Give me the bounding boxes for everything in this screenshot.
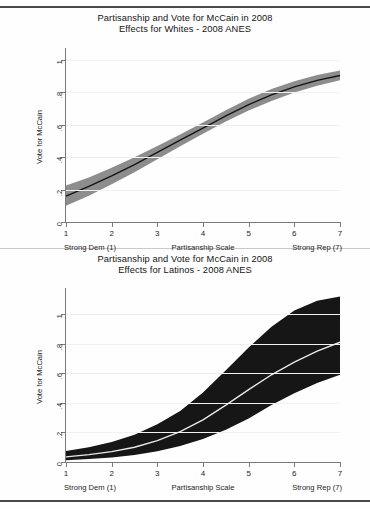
x-tick-label: 7 xyxy=(338,229,342,238)
y-tick-label: .4 xyxy=(55,403,64,409)
figure-whites: Partisanship and Vote for McCain in 2008… xyxy=(0,8,370,248)
plot-area-whites: Vote for McCain Strong Dem (1) Partisans… xyxy=(66,52,340,222)
gridline-y xyxy=(66,432,340,433)
y-tick-label: 1 xyxy=(55,60,64,64)
x-tick-label: 5 xyxy=(246,469,250,478)
figure-latinos-title: Partisanship and Vote for McCain in 2008… xyxy=(0,254,370,277)
x-tick-label: 3 xyxy=(155,229,159,238)
figure-whites-title: Partisanship and Vote for McCain in 2008… xyxy=(0,13,370,36)
x-tick xyxy=(249,222,250,227)
y-tick-label: 1 xyxy=(55,314,64,318)
gridline-y xyxy=(66,60,340,61)
x-tick-label: 6 xyxy=(292,469,296,478)
caption-strong-rep-whites: Strong Rep (7) xyxy=(292,243,342,252)
y-tick-label: .2 xyxy=(55,432,64,438)
y-axis-title-whites: Vote for McCain xyxy=(35,110,44,164)
x-tick xyxy=(157,222,158,227)
y-tick-label: .8 xyxy=(55,344,64,350)
series-whites xyxy=(66,52,340,222)
x-tick-label: 4 xyxy=(201,229,205,238)
gridline-y xyxy=(66,373,340,374)
x-tick-label: 5 xyxy=(246,229,250,238)
y-tick-label: .8 xyxy=(55,92,64,98)
x-tick xyxy=(203,462,204,467)
caption-strong-dem-latinos: Strong Dem (1) xyxy=(64,483,116,492)
x-tick-label: 4 xyxy=(201,469,205,478)
series-latinos xyxy=(66,292,340,462)
figure-whites-title-line2: Effects for Whites - 2008 ANES xyxy=(0,24,370,35)
bottom-divider xyxy=(0,500,370,502)
y-tick-label: .2 xyxy=(55,190,64,196)
figure-latinos: Partisanship and Vote for McCain in 2008… xyxy=(0,252,370,500)
y-tick-label: .4 xyxy=(55,157,64,163)
y-tick-label: .6 xyxy=(55,373,64,379)
x-tick xyxy=(112,462,113,467)
confidence-band xyxy=(66,71,340,206)
x-tick xyxy=(203,222,204,227)
x-tick-label: 1 xyxy=(64,469,68,478)
x-tick-label: 1 xyxy=(64,229,68,238)
x-tick xyxy=(112,222,113,227)
y-tick-label: 0 xyxy=(55,462,64,466)
gridline-y xyxy=(66,403,340,404)
caption-scale-latinos: Partisanship Scale xyxy=(172,483,235,492)
plot-area-latinos: Vote for McCain Strong Dem (1) Partisans… xyxy=(66,292,340,462)
caption-strong-rep-latinos: Strong Rep (7) xyxy=(292,483,342,492)
x-tick-label: 2 xyxy=(109,469,113,478)
gridline-y xyxy=(66,125,340,126)
gridline-y xyxy=(66,92,340,93)
x-tick xyxy=(294,462,295,467)
x-tick-label: 6 xyxy=(292,229,296,238)
gridline-y xyxy=(66,314,340,315)
x-tick xyxy=(340,222,341,227)
x-tick xyxy=(66,462,67,467)
y-axis-title-latinos: Vote for McCain xyxy=(35,350,44,404)
y-tick-label: 0 xyxy=(55,222,64,226)
figure-latinos-title-line2: Effects for Latinos - 2008 ANES xyxy=(0,265,370,276)
x-tick-label: 7 xyxy=(338,469,342,478)
x-tick xyxy=(157,462,158,467)
gridline-y xyxy=(66,190,340,191)
gridline-y xyxy=(66,157,340,158)
caption-strong-dem-whites: Strong Dem (1) xyxy=(64,243,116,252)
x-tick xyxy=(340,462,341,467)
y-tick-label: .6 xyxy=(55,125,64,131)
x-tick xyxy=(249,462,250,467)
figure-whites-title-line1: Partisanship and Vote for McCain in 2008 xyxy=(0,13,370,24)
gridline-y xyxy=(66,344,340,345)
confidence-band xyxy=(66,296,340,460)
figure-page: Partisanship and Vote for McCain in 2008… xyxy=(0,0,370,509)
caption-scale-whites: Partisanship Scale xyxy=(172,243,235,252)
x-tick xyxy=(66,222,67,227)
x-tick xyxy=(294,222,295,227)
x-tick-label: 2 xyxy=(109,229,113,238)
figure-latinos-title-line1: Partisanship and Vote for McCain in 2008 xyxy=(0,254,370,265)
x-tick-label: 3 xyxy=(155,469,159,478)
prediction-line xyxy=(66,75,340,196)
